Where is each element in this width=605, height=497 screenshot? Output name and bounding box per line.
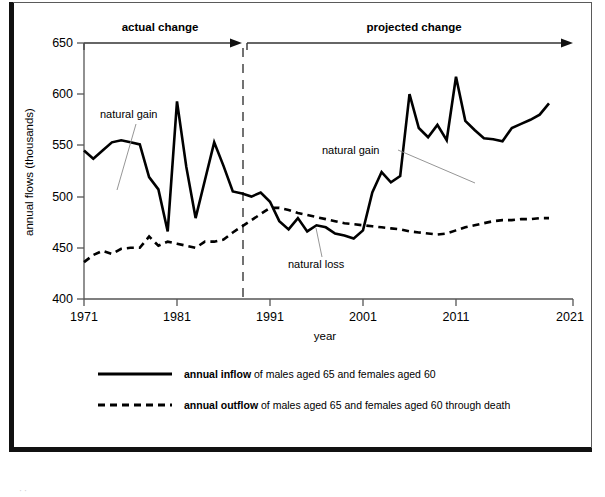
x-tick-label-2001: 2001: [349, 310, 377, 324]
x-tick-label-2011: 2011: [443, 310, 470, 324]
y-tick-label-650: 650: [52, 36, 73, 50]
legend-label-annual-outflow: annual outflow of males aged 65 and fema…: [184, 399, 510, 411]
y-axis-title: annual flows (thousands): [23, 108, 35, 236]
annotation-label-natural-gain-projected: natural gain: [322, 144, 380, 156]
legend-label-annual-inflow-rest: of males aged 65 and females aged 60: [251, 368, 436, 380]
y-tick-label-500: 500: [52, 190, 73, 204]
x-axis-title: year: [314, 330, 337, 342]
page-canvas: actual change projected change 650 600 5…: [0, 0, 605, 497]
annotation-label-natural-loss: natural loss: [288, 258, 345, 270]
phase-label-projected: projected change: [366, 21, 461, 33]
legend-label-annual-inflow-bold: annual inflow: [184, 368, 252, 380]
x-axis-ticks: [84, 299, 573, 306]
phase-actual-arrow: [84, 39, 242, 51]
phase-projected-arrow: [247, 39, 573, 51]
legend-label-annual-inflow: annual inflow of males aged 65 and femal…: [184, 368, 436, 380]
x-tick-label-1971: 1971: [70, 310, 98, 324]
line-chart: actual change projected change 650 600 5…: [0, 0, 605, 497]
y-axis-ticks: [77, 43, 84, 299]
x-tick-label-1991: 1991: [256, 310, 284, 324]
annotation-label-natural-gain-actual: natural gain: [100, 108, 158, 120]
y-tick-label-550: 550: [52, 138, 73, 152]
legend-label-annual-outflow-rest: of males aged 65 and females aged 60 thr…: [258, 399, 510, 411]
phase-label-actual: actual change: [122, 21, 199, 33]
x-tick-label-2021: 2021: [556, 310, 584, 324]
legend-item-annual-inflow[interactable]: annual inflow of males aged 65 and femal…: [98, 368, 436, 380]
legend-label-annual-outflow-bold: annual outflow: [184, 399, 259, 411]
legend-item-annual-outflow[interactable]: annual outflow of males aged 65 and fema…: [98, 399, 510, 411]
y-tick-label-600: 600: [52, 87, 73, 101]
series-annual-inflow-line: [84, 77, 549, 239]
y-tick-label-450: 450: [52, 241, 73, 255]
series-annual-outflow-line: [84, 208, 549, 262]
x-tick-label-1981: 1981: [163, 310, 191, 324]
y-tick-label-400: 400: [52, 292, 73, 306]
legend: annual inflow of males aged 65 and femal…: [98, 368, 510, 411]
page-footer-artifact: ॱॱ: [19, 486, 29, 497]
